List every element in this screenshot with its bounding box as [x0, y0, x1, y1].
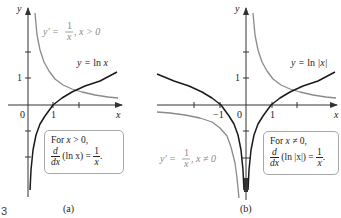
x-axis-label-b: x: [333, 109, 339, 120]
svg-text:x: x: [66, 31, 72, 42]
x-tick-label-m1-b: −1: [213, 109, 224, 120]
svg-text:1: 1: [67, 20, 72, 31]
svg-text:1: 1: [184, 147, 189, 158]
formula-box-b: For x ≠ 0, ddx (ln |x|) = 1x.: [263, 131, 339, 175]
formula-b-expression: ddx (ln |x|) = 1x.: [270, 147, 332, 168]
derivative-curve-b-right: [253, 13, 336, 98]
formula-b-condition: For x ≠ 0,: [270, 135, 332, 147]
formula-box-a: For x > 0, ddx (ln x) = 1x.: [44, 130, 124, 174]
formula-a-expression: ddx (ln x) = 1x.: [51, 146, 117, 167]
ln-curve-label-a: y = ln x: [76, 57, 108, 68]
derivative-label-b: y' = 1 x , x ≠ 0: [159, 147, 216, 169]
caption-b: (b): [240, 203, 252, 215]
y-axis-label-a: y: [16, 3, 22, 14]
figure-number: 3: [1, 205, 7, 217]
x-tick-label-1-a: 1: [51, 109, 56, 120]
svg-text:, x > 0: , x > 0: [74, 26, 100, 37]
svg-text:y' =: y' =: [42, 26, 59, 37]
y-axis-label-b: y: [234, 3, 240, 14]
ln-abs-curve-label-b: y = ln |x|: [290, 57, 327, 68]
x-axis-label-a: x: [115, 109, 121, 120]
origin-label-a: 0: [20, 109, 25, 120]
panel-b: y x 0 1 −1 1 y = ln |x| y' = 1 x , x ≠ 0…: [157, 3, 339, 215]
asymptote-marker-b: [244, 178, 248, 192]
formula-a-condition: For x > 0,: [51, 134, 117, 146]
y-tick-label-1-a: 1: [17, 72, 22, 83]
figure-canvas: y x 0 1 1 y = ln x y' = 1 x , x > 0 (a): [0, 0, 341, 218]
x-tick-label-1-b: 1: [270, 109, 275, 120]
derivative-label-a: y' = 1 x , x > 0: [42, 20, 100, 42]
svg-text:y' =: y' =: [159, 153, 176, 164]
y-tick-label-1-b: 1: [235, 72, 240, 83]
panel-a: y x 0 1 1 y = ln x y' = 1 x , x > 0 (a): [8, 3, 122, 215]
svg-text:x: x: [183, 158, 189, 169]
ln-abs-curve-b-left: [157, 74, 244, 190]
caption-a: (a): [63, 203, 74, 215]
origin-label-b: 0: [237, 109, 242, 120]
svg-text:, x ≠ 0: , x ≠ 0: [191, 153, 216, 164]
